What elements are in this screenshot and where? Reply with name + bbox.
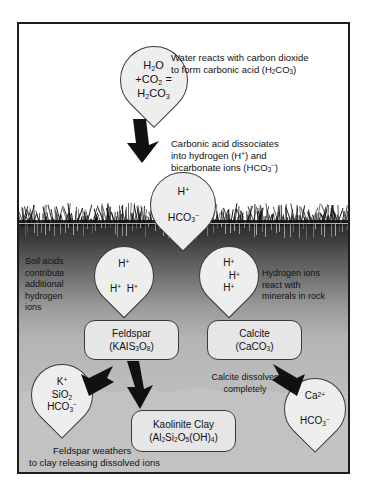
caption-hydrogen-react-l2: react with [262, 280, 301, 290]
box-calcite-name: Calcite [239, 328, 270, 339]
caption-water-reacts: Water reacts with carbon dioxide to form… [171, 52, 350, 77]
caption-hydrogen-react-l1: Hydrogen ions [262, 268, 320, 278]
caption-feldspar-weathers: Feldspar weathers to clay releasing diss… [29, 445, 239, 469]
caption-feldspar-weathers-l2: to clay releasing dissolved ions [29, 457, 160, 468]
drop-soil-right-text: H+ H+H+ [218, 257, 240, 295]
caption-calcite-dissolves-l2: completely [223, 384, 266, 394]
caption-soil-acids-l2: contribute [25, 268, 65, 278]
box-feldspar-text: Feldspar (KAIS3O8) [109, 327, 154, 354]
diagram-frame: H2O+CO2 =H2CO3 Water reacts with carbon … [17, 22, 350, 474]
caption-water-reacts-line1: Water reacts with carbon dioxide [171, 52, 308, 63]
caption-dissociates: Carbonic acid dissociates into hydrogen … [171, 138, 350, 175]
drop-soil-left-text: H+ H+ H+ [110, 257, 138, 295]
drop-acid-text: H+HCO3− [167, 185, 198, 225]
box-feldspar-name: Feldspar [112, 328, 151, 339]
caption-calcite-dissolves-l1: Calcite dissolves [211, 372, 278, 382]
drop-rain-text: H2O+CO2 =H2CO3 [136, 59, 172, 100]
box-kaolinite-text: Kaolinite Clay (Al2Si2O5(OH)4) [149, 418, 218, 445]
caption-calcite-dissolves: Calcite dissolves completely [197, 372, 293, 395]
caption-feldspar-weathers-l1: Feldspar weathers [53, 445, 131, 457]
box-feldspar: Feldspar (KAIS3O8) [84, 320, 179, 360]
caption-hydrogen-react-l3: minerals in rock [262, 291, 325, 301]
box-kaolinite-name: Kaolinite Clay [153, 419, 214, 430]
caption-soil-acids-l4: hydrogen [25, 291, 63, 301]
arrow-feldspar-to-clay [125, 361, 155, 409]
caption-hydrogen-react: Hydrogen ions react with minerals in roc… [262, 268, 350, 303]
arrow-feldspar-to-ions [73, 364, 115, 398]
diagram-stage: H2O+CO2 =H2CO3 Water reacts with carbon … [0, 0, 367, 492]
caption-soil-acids-l1: Soil acids [25, 256, 64, 266]
arrow-rain-to-acid [127, 119, 161, 163]
caption-dissociates-line1: Carbonic acid dissociates [171, 138, 279, 149]
caption-soil-acids: Soil acids contribute additional hydroge… [25, 256, 87, 314]
box-calcite-text: Calcite (CaCO3) [235, 327, 273, 354]
caption-soil-acids-l5: ions [25, 302, 42, 312]
box-calcite: Calcite (CaCO3) [207, 320, 302, 360]
caption-soil-acids-l3: additional [25, 279, 64, 289]
